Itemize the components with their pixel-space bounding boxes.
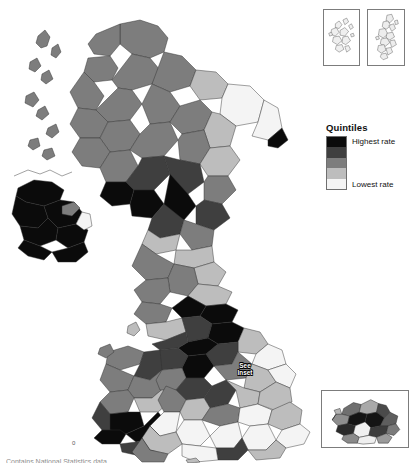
legend-swatch-quintile-2 bbox=[327, 168, 346, 178]
legend-swatch-quintile-5 bbox=[327, 137, 346, 147]
uk-map-svg: .q5{fill:#0b0b0b} .q4{fill:#3f3f3f} .q3{… bbox=[0, 0, 320, 463]
legend-swatch-quintile-3 bbox=[327, 158, 346, 168]
legend-title: Quintiles bbox=[326, 122, 411, 133]
legend-swatch-quintile-4 bbox=[327, 147, 346, 157]
orkney-inset[interactable] bbox=[323, 9, 360, 66]
scale-mark: 0 bbox=[72, 440, 75, 446]
orkney-inset-svg bbox=[324, 10, 359, 65]
region-northern-ireland bbox=[12, 170, 92, 262]
shetland-inset[interactable] bbox=[367, 9, 405, 66]
legend-body: Highest rate Lowest rate bbox=[325, 136, 411, 192]
isle-of-man bbox=[127, 322, 140, 336]
legend-label-highest: Highest rate bbox=[352, 137, 395, 146]
legend-color-ramp bbox=[326, 136, 347, 190]
footer-note: Contains National Statistics data bbox=[6, 458, 246, 463]
london-inset[interactable] bbox=[321, 390, 409, 448]
map-figure: .q5{fill:#0b0b0b} .q4{fill:#3f3f3f} .q3{… bbox=[0, 0, 412, 463]
legend-swatch-quintile-1 bbox=[327, 179, 346, 189]
region-hebrides bbox=[25, 30, 61, 160]
region-scotland bbox=[70, 20, 288, 286]
shetland-inset-svg bbox=[368, 10, 404, 65]
legend: Quintiles Highest rate Lowest rate bbox=[325, 122, 411, 192]
legend-label-lowest: Lowest rate bbox=[352, 180, 393, 189]
map-areas bbox=[12, 20, 310, 463]
london-inset-svg bbox=[322, 391, 408, 447]
uk-choropleth-map[interactable]: .q5{fill:#0b0b0b} .q4{fill:#3f3f3f} .q3{… bbox=[0, 0, 320, 463]
